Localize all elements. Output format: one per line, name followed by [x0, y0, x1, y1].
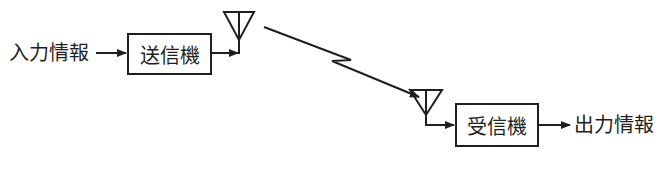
transmitter-box: 送信機 — [127, 33, 212, 75]
receiver-box: 受信機 — [455, 103, 539, 147]
transmitter-label: 送信機 — [140, 40, 200, 69]
transmit-antenna-icon — [224, 12, 254, 54]
wireless-link-arrow — [264, 27, 419, 97]
output-info-label: 出力情報 — [574, 113, 654, 137]
input-info-label: 入力情報 — [9, 41, 89, 65]
diagram-lines — [0, 0, 661, 175]
receiver-label: 受信機 — [467, 111, 527, 140]
